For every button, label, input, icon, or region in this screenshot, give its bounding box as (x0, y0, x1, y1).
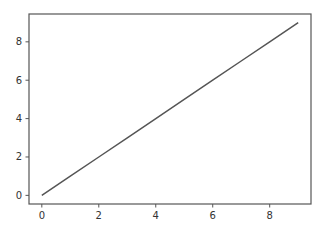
y-axis-ticks: 02468 (16, 36, 29, 201)
y-tick-label: 4 (16, 113, 22, 124)
x-tick-label: 6 (210, 210, 216, 221)
x-tick-label: 8 (267, 210, 273, 221)
y-tick-label: 2 (16, 151, 22, 162)
x-tick-label: 0 (39, 210, 45, 221)
y-tick-label: 0 (16, 190, 22, 201)
x-axis-ticks: 02468 (39, 204, 273, 221)
y-tick-label: 6 (16, 75, 22, 86)
x-tick-label: 2 (96, 210, 102, 221)
line-chart: 02468 02468 (0, 0, 326, 230)
y-tick-label: 8 (16, 36, 22, 47)
x-tick-label: 4 (153, 210, 159, 221)
